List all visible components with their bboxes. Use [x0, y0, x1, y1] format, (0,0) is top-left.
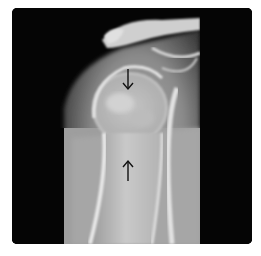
- xray-image: [12, 8, 252, 244]
- arrow-up-icon: [122, 158, 134, 182]
- xray-frame: [12, 8, 252, 244]
- cropped-caption-text: [70, 0, 160, 4]
- arrow-down-icon: [122, 68, 134, 92]
